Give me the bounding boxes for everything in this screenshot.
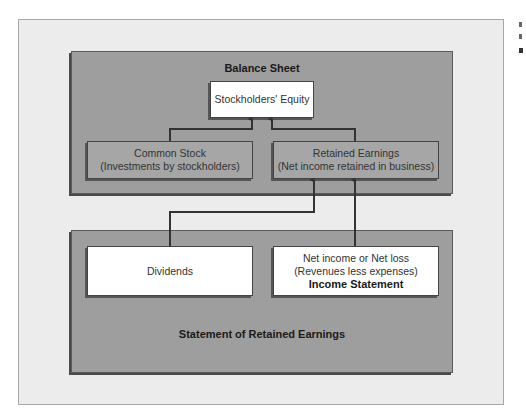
- retained-earnings-label: Retained Earnings: [313, 147, 399, 160]
- net-income-desc: (Revenues less expenses): [294, 265, 418, 278]
- edge-artifact: [519, 48, 523, 53]
- common-stock-box: Common Stock (Investments by stockholder…: [87, 141, 253, 179]
- stockholders-equity-label: Stockholders' Equity: [215, 93, 310, 106]
- stockholders-equity-box: Stockholders' Equity: [210, 81, 314, 118]
- retained-earnings-box: Retained Earnings (Net income retained i…: [273, 141, 439, 179]
- common-stock-desc: (Investments by stockholders): [100, 160, 239, 173]
- balance-sheet-title: Balance Sheet: [71, 62, 453, 74]
- common-stock-label: Common Stock: [134, 147, 206, 160]
- edge-artifact: [519, 22, 522, 27]
- net-income-box: Net income or Net loss (Revenues less ex…: [273, 246, 439, 296]
- edge-artifact: [519, 34, 522, 39]
- income-statement-label: Income Statement: [309, 278, 404, 291]
- dividends-label: Dividends: [147, 265, 193, 278]
- retained-earnings-desc: (Net income retained in business): [278, 160, 434, 173]
- retained-earnings-statement-title: Statement of Retained Earnings: [71, 328, 453, 340]
- net-income-label: Net income or Net loss: [303, 252, 409, 265]
- dividends-box: Dividends: [87, 246, 253, 296]
